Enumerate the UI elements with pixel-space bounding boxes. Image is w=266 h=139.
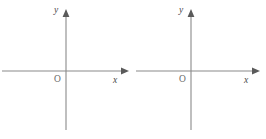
x-axis-label: x: [112, 75, 118, 85]
x-axis-label: x: [243, 75, 249, 85]
y-axis-label: y: [53, 5, 59, 15]
y-axis-arrowhead-icon: [188, 9, 195, 17]
axes-svg-right: x y O: [133, 0, 266, 139]
coordinate-system-right: x y O: [133, 0, 266, 139]
x-axis-arrowhead-icon: [121, 68, 129, 75]
origin-label: O: [179, 74, 186, 84]
coordinate-system-left: x y O: [0, 0, 133, 139]
axes-svg-left: x y O: [0, 0, 133, 139]
y-axis-label: y: [178, 5, 184, 15]
x-axis-arrowhead-icon: [252, 68, 260, 75]
y-axis-arrowhead-icon: [63, 9, 70, 17]
origin-label: O: [54, 74, 61, 84]
figure-canvas: x y O x y O: [0, 0, 266, 139]
